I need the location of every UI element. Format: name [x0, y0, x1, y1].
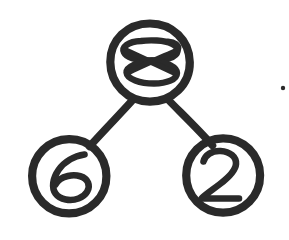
diagram-canvas: 8 6 2	[0, 0, 289, 240]
ink-speck-mark	[281, 86, 285, 90]
tree-diagram: 8 6 2	[0, 0, 289, 240]
